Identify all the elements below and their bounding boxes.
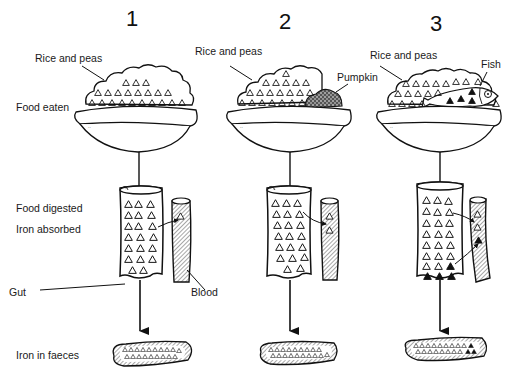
svg-text:..: .. (240, 123, 243, 129)
blood-vessel-1 (172, 198, 191, 282)
gut-2 (267, 186, 311, 278)
food-label-1: Rice and peas (35, 53, 102, 64)
column-number-3: 3 (430, 13, 442, 35)
blood-vessel-3 (470, 197, 490, 282)
blood-vessel-2 (321, 198, 339, 280)
faeces-1 (113, 341, 191, 366)
column-number-2: 2 (279, 11, 291, 33)
bowl-2: .. (227, 66, 351, 152)
svg-text:..: .. (390, 123, 393, 129)
blood-label: Blood (191, 287, 218, 298)
row-label-iron-absorbed: Iron absorbed (16, 224, 81, 235)
column-number-1: 1 (126, 8, 138, 30)
column-2: .. (227, 66, 351, 365)
food-label-2: Rice and peas (195, 46, 262, 57)
gut-label: Gut (9, 287, 26, 298)
gut-3 (417, 182, 463, 279)
row-label-iron-in-faeces: Iron in faeces (16, 350, 79, 361)
extra-label-pumpkin: Pumpkin (337, 72, 378, 83)
column-3: .. (377, 66, 501, 361)
bowl-1: .. (75, 65, 197, 152)
row-label-food-eaten: Food eaten (16, 102, 69, 113)
faeces-3 (405, 337, 486, 360)
faeces-2 (260, 342, 337, 365)
row-label-food-digested: Food digested (16, 203, 83, 214)
extra-label-fish: Fish (481, 59, 501, 70)
food-label-3: Rice and peas (370, 50, 437, 61)
gut-1 (120, 186, 163, 278)
svg-text:..: .. (88, 123, 91, 129)
